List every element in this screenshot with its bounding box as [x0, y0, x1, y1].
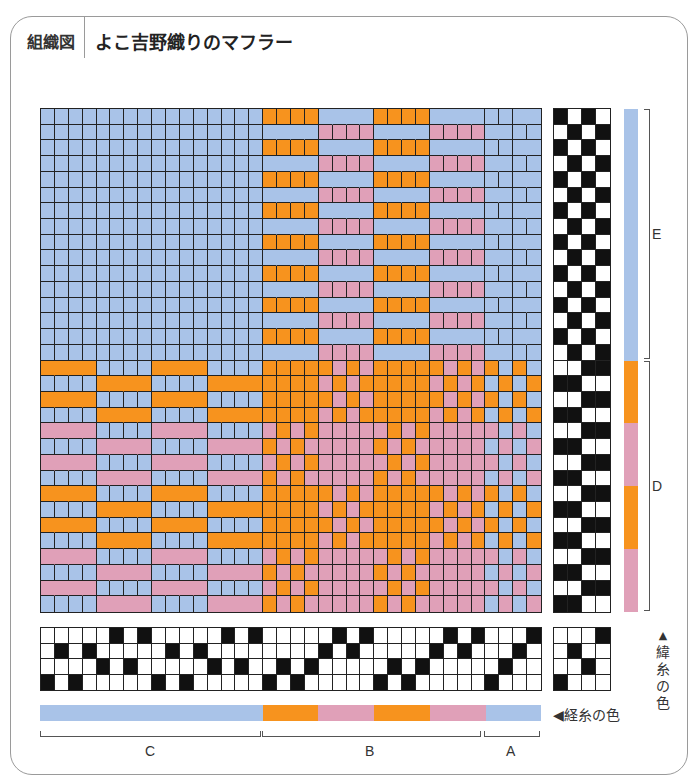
grid-cell — [208, 313, 222, 329]
grid-cell — [527, 581, 541, 597]
grid-cell — [277, 581, 291, 597]
grid-cell — [249, 172, 263, 188]
grid-cell — [360, 581, 374, 597]
grid-cell — [485, 423, 499, 439]
grid-cell — [472, 172, 486, 188]
grid-cell — [416, 266, 430, 282]
grid-cell — [305, 518, 319, 534]
grid-cell — [208, 172, 222, 188]
grid-cell — [444, 282, 458, 298]
grid-cell — [485, 659, 499, 675]
grid-cell — [527, 235, 541, 251]
section-bracket-b — [262, 731, 481, 737]
grid-cell — [249, 471, 263, 487]
grid-cell — [374, 596, 388, 612]
grid-cell — [97, 298, 111, 314]
grid-cell — [444, 596, 458, 612]
grid-cell — [291, 408, 305, 424]
grid-cell — [596, 345, 610, 361]
section-label-a: A — [506, 743, 515, 759]
grid-cell — [554, 565, 568, 581]
grid-cell — [333, 219, 347, 235]
grid-cell — [472, 203, 486, 219]
grid-cell — [458, 298, 472, 314]
grid-cell — [513, 376, 527, 392]
grid-cell — [374, 361, 388, 377]
grid-cell — [554, 486, 568, 502]
grid-cell — [527, 596, 541, 612]
grid-cell — [416, 392, 430, 408]
grid-cell — [360, 361, 374, 377]
grid-cell — [235, 329, 249, 345]
grid-cell — [208, 329, 222, 345]
grid-cell — [83, 502, 97, 518]
grid-cell — [388, 125, 402, 141]
grid-cell — [41, 376, 55, 392]
weft-color-segment — [624, 298, 638, 314]
grid-cell — [596, 298, 610, 314]
grid-cell — [152, 203, 166, 219]
grid-cell — [110, 423, 124, 439]
grid-cell — [568, 439, 582, 455]
grid-cell — [97, 486, 111, 502]
grid-cell — [249, 203, 263, 219]
grid-cell — [235, 596, 249, 612]
grid-cell — [527, 172, 541, 188]
grid-cell — [277, 675, 291, 691]
grid-cell — [430, 533, 444, 549]
grid-cell — [568, 172, 582, 188]
grid-cell — [527, 203, 541, 219]
grid-cell — [319, 455, 333, 471]
grid-cell — [374, 659, 388, 675]
grid-cell — [194, 486, 208, 502]
grid-cell — [194, 235, 208, 251]
grid-cell — [277, 188, 291, 204]
grid-cell — [499, 109, 513, 125]
grid-cell — [41, 235, 55, 251]
warp-color-segment — [124, 705, 138, 721]
grid-cell — [110, 282, 124, 298]
grid-cell — [458, 565, 472, 581]
grid-cell — [360, 250, 374, 266]
grid-cell — [444, 361, 458, 377]
weft-color-segment — [624, 502, 638, 518]
grid-cell — [485, 628, 499, 644]
grid-cell — [568, 282, 582, 298]
grid-cell — [41, 549, 55, 565]
grid-cell — [180, 172, 194, 188]
grid-cell — [416, 282, 430, 298]
grid-cell — [319, 235, 333, 251]
grid-cell — [458, 471, 472, 487]
grid-cell — [444, 203, 458, 219]
grid-cell — [374, 549, 388, 565]
grid-cell — [527, 549, 541, 565]
grid-cell — [235, 219, 249, 235]
grid-cell — [347, 188, 361, 204]
grid-cell — [374, 345, 388, 361]
grid-cell — [138, 502, 152, 518]
grid-cell — [472, 423, 486, 439]
grid-cell — [110, 518, 124, 534]
grid-cell — [305, 644, 319, 660]
grid-cell — [568, 156, 582, 172]
grid-cell — [305, 439, 319, 455]
grid-cell — [554, 313, 568, 329]
grid-cell — [333, 533, 347, 549]
grid-cell — [235, 392, 249, 408]
grid-cell — [388, 423, 402, 439]
grid-cell — [554, 298, 568, 314]
grid-cell — [138, 518, 152, 534]
grid-cell — [110, 596, 124, 612]
grid-cell — [291, 188, 305, 204]
grid-cell — [235, 659, 249, 675]
grid-cell — [305, 581, 319, 597]
grid-cell — [388, 109, 402, 125]
grid-cell — [55, 392, 69, 408]
grid-cell — [582, 439, 596, 455]
grid-cell — [472, 361, 486, 377]
grid-cell — [402, 282, 416, 298]
grid-cell — [166, 156, 180, 172]
grid-cell — [69, 486, 83, 502]
grid-cell — [110, 675, 124, 691]
grid-cell — [458, 518, 472, 534]
